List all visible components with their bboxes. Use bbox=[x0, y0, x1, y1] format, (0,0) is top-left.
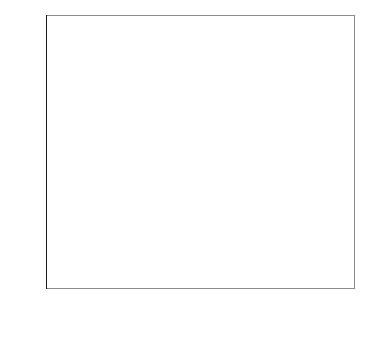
y-axis-spine bbox=[46, 15, 47, 289]
plot-area bbox=[46, 15, 355, 289]
chart-figure bbox=[0, 0, 378, 341]
data-curve bbox=[47, 16, 354, 288]
